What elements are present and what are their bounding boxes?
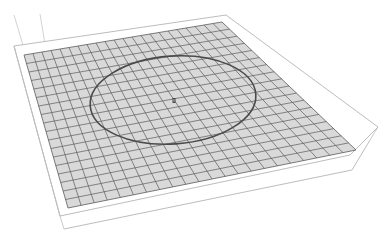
origin-marker-icon[interactable] (173, 98, 176, 103)
build-plate-grid (24, 22, 356, 208)
scene-canvas[interactable] (0, 0, 390, 242)
3d-viewport[interactable] (0, 0, 390, 242)
